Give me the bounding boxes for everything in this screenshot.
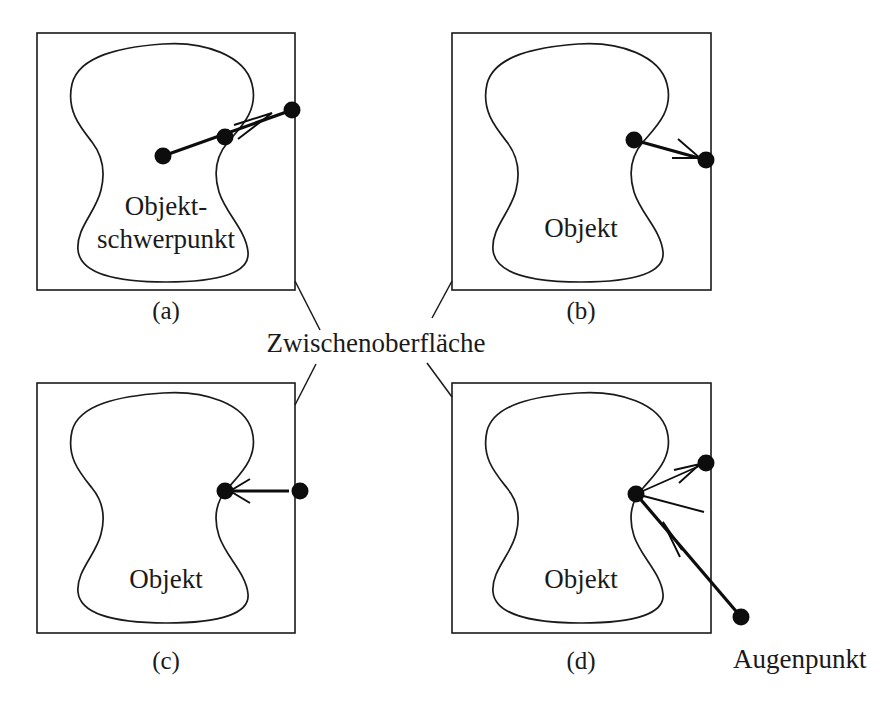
- callout-label: Zwischenoberfläche: [267, 328, 486, 358]
- panel-d-blob-label: Objekt: [544, 564, 618, 594]
- panel-b-label: (b): [566, 297, 595, 325]
- panel-a-surface-dot: [217, 129, 234, 146]
- panel-a-centroid-dot: [155, 148, 172, 165]
- callout-leader-to-c: [295, 364, 316, 405]
- panel-c-label: (c): [152, 647, 180, 675]
- panel-a: Objekt- schwerpunkt (a): [37, 33, 301, 325]
- panel-b-blob-label: Objekt: [544, 213, 618, 243]
- panel-a-blob-label-line2: schwerpunkt: [97, 224, 235, 254]
- panel-d-outer-dot: [698, 455, 715, 472]
- panel-b-surface-dot: [626, 132, 643, 149]
- panel-b: Objekt (b): [452, 33, 715, 325]
- panel-d-label: (d): [566, 647, 595, 675]
- callout-leader-to-d: [427, 363, 452, 397]
- figure-canvas: Objekt- schwerpunkt (a) Objekt (b) Objek…: [0, 0, 896, 718]
- panel-d: Objekt Augenpunkt (d): [452, 383, 867, 675]
- panel-d-surface-dot: [628, 486, 645, 503]
- panel-c-blob-label: Objekt: [129, 564, 203, 594]
- callout-leader-to-b: [432, 281, 452, 318]
- panel-c-outer-dot: [292, 483, 309, 500]
- eye-point-label: Augenpunkt: [733, 644, 867, 674]
- panel-a-outer-dot: [284, 102, 301, 119]
- panel-c: Objekt (c): [37, 383, 309, 675]
- panel-b-ray: [634, 140, 706, 160]
- panel-b-outer-dot: [698, 152, 715, 169]
- panel-a-blob-label-line1: Objekt-: [125, 191, 207, 221]
- panel-d-ray-secondary: [636, 494, 704, 512]
- panel-d-arrowhead-reflected-icon: [674, 464, 700, 483]
- panel-d-arrowhead-view-icon: [663, 522, 682, 557]
- panel-a-label: (a): [152, 297, 180, 325]
- panel-b-object-contour: [486, 44, 669, 282]
- panel-c-surface-dot: [217, 483, 234, 500]
- diagram-svg: Objekt- schwerpunkt (a) Objekt (b) Objek…: [0, 0, 896, 718]
- callout-leader-to-a: [295, 281, 320, 330]
- panel-d-eye-dot: [733, 609, 750, 626]
